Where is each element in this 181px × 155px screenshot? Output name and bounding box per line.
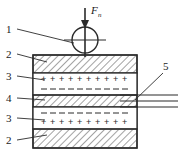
top-electrode-plate <box>33 55 137 73</box>
callout-label-3-upper-layer: 3 <box>6 70 12 82</box>
svg-text:+: + <box>68 74 73 84</box>
svg-text:+: + <box>41 74 46 84</box>
svg-text:+: + <box>59 74 64 84</box>
svg-text:+: + <box>86 74 91 84</box>
svg-text:+: + <box>122 117 127 127</box>
svg-text:+: + <box>50 74 55 84</box>
svg-text:+: + <box>113 74 118 84</box>
svg-text:+: + <box>50 117 55 127</box>
force-label: F <box>90 4 98 16</box>
figure-canvas: + + + + + + + + + + <box>0 0 181 155</box>
svg-text:+: + <box>113 117 118 127</box>
callout-label-2-bottom-electrode: 2 <box>6 134 12 146</box>
lower-charged-layer: + + + + + + + + + + <box>33 107 137 129</box>
svg-text:+: + <box>77 74 82 84</box>
svg-text:+: + <box>68 117 73 127</box>
svg-text:+: + <box>86 117 91 127</box>
callout-label-3-lower-layer: 3 <box>6 112 12 124</box>
callout-label-4-center-electrode: 4 <box>6 92 12 104</box>
svg-text:+: + <box>77 117 82 127</box>
callout-label-5-lead-wires: 5 <box>163 60 169 72</box>
svg-text:+: + <box>95 74 100 84</box>
svg-text:+: + <box>104 117 109 127</box>
sensor-cross-section-diagram: + + + + + + + + + + <box>0 0 181 155</box>
svg-text:+: + <box>95 117 100 127</box>
svg-text:+: + <box>41 117 46 127</box>
svg-text:+: + <box>104 74 109 84</box>
svg-text:+: + <box>59 117 64 127</box>
callout-label-2-top-electrode: 2 <box>6 48 12 60</box>
upper-charged-layer: + + + + + + + + + + <box>33 73 137 95</box>
callout-label-1-loading-ball: 1 <box>6 23 12 35</box>
svg-text:+: + <box>122 74 127 84</box>
force-label-subscript: n <box>98 11 102 19</box>
bottom-electrode-plate <box>33 129 137 148</box>
